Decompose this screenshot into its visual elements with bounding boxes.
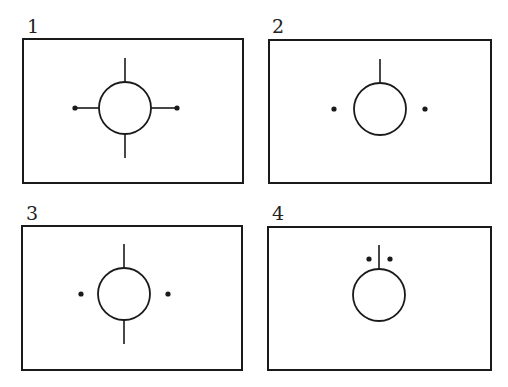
panel-label-3: 3 bbox=[26, 202, 38, 224]
panel-2: 2 bbox=[269, 15, 491, 183]
right-dot bbox=[165, 291, 170, 296]
right-dot bbox=[387, 256, 392, 261]
circle bbox=[353, 269, 405, 321]
circle bbox=[99, 82, 151, 134]
panel-3: 3 bbox=[22, 202, 242, 370]
panel-frame bbox=[23, 39, 243, 183]
left-dot bbox=[366, 256, 371, 261]
right-dot bbox=[422, 106, 427, 111]
left-dot bbox=[78, 291, 83, 296]
panel-4: 4 bbox=[268, 202, 491, 370]
figure-canvas: 1 2 3 4 bbox=[0, 0, 508, 387]
circle bbox=[98, 268, 150, 320]
panel-frame bbox=[22, 226, 242, 370]
panel-label-4: 4 bbox=[272, 202, 284, 224]
left-dot bbox=[331, 106, 336, 111]
circle bbox=[354, 83, 406, 135]
left-dot bbox=[72, 105, 77, 110]
panel-label-1: 1 bbox=[27, 15, 39, 37]
panel-label-2: 2 bbox=[272, 15, 284, 37]
panel-1: 1 bbox=[23, 15, 243, 183]
right-dot bbox=[174, 105, 179, 110]
